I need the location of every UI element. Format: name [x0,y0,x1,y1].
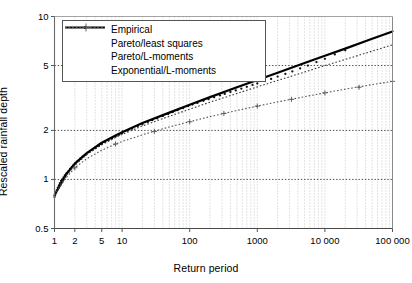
legend-item-label: Pareto/least squares [111,37,203,51]
series-line-exponential-lmoments [55,81,393,195]
data-point-empirical [284,73,286,75]
data-point-empirical [251,84,253,86]
y-tick-label: 1 [43,173,48,184]
x-tick-label: 100 [160,235,220,246]
data-point-empirical [246,86,248,88]
legend-plus-icon [82,24,90,32]
data-point-empirical [307,64,309,66]
x-tick-label: 1000 [227,235,287,246]
legend-item-label: Pareto/L-moments [111,50,193,64]
x-axis-label: Return period [0,262,412,274]
legend-key-dotted-plus-line [65,64,111,78]
marker-plus [187,119,192,124]
legend-item: Pareto/L-moments [65,50,261,64]
legend-item: Exponential/L-moments [65,64,261,78]
data-point-empirical [270,78,272,80]
y-tick-label: 5 [43,60,48,71]
legend-item-label: Exponential/L-moments [111,64,216,78]
data-point-empirical [240,87,242,89]
data-point-empirical [324,58,326,60]
data-point-empirical [256,82,258,84]
data-point-empirical [229,91,231,93]
marker-plus [322,90,327,95]
y-tick-label: 2 [43,124,48,135]
x-tick-label: 10 [92,235,152,246]
marker-plus [221,111,226,116]
x-tick-label: 100 000 [363,235,412,246]
marker-plus [113,141,118,146]
legend-item-label: Empirical [111,23,152,37]
legend-item: Pareto/least squares [65,37,261,51]
data-point-empirical [235,89,237,91]
data-point-empirical [277,75,279,77]
legend-key-dotted-line [65,50,111,64]
data-point-empirical [299,67,301,69]
data-point-empirical [291,70,293,72]
chart-figure: Rescaled rainfall depth Return period 0.… [0,0,412,283]
legend-key-solid-line [65,37,111,51]
y-tick-label: 10 [38,11,49,22]
y-tick-label: 0.5 [35,223,48,234]
marker-plus [152,129,157,134]
x-tick-label: 10 000 [295,235,355,246]
chart-legend: EmpiricalPareto/least squaresPareto/L-mo… [62,20,266,82]
marker-plus [255,103,260,108]
data-point-empirical [315,61,317,63]
